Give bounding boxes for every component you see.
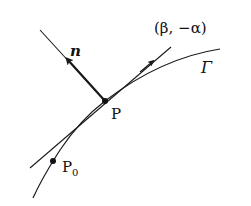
diagram-canvas: n (β, −α) Γ P P0 — [0, 0, 251, 206]
tangent-line — [30, 47, 171, 168]
normal-vector-arrow — [68, 60, 105, 101]
curve-label: Γ — [200, 58, 213, 77]
tangent-arrow — [140, 62, 152, 72]
point-p — [102, 98, 108, 104]
diagram-svg: n (β, −α) Γ P P0 — [0, 0, 251, 206]
normal-label: n — [70, 42, 81, 60]
point-p0 — [50, 158, 56, 164]
point-p0-label: P0 — [62, 158, 78, 178]
point-p-label: P — [111, 105, 121, 123]
tangent-direction-label: (β, −α) — [154, 19, 207, 37]
